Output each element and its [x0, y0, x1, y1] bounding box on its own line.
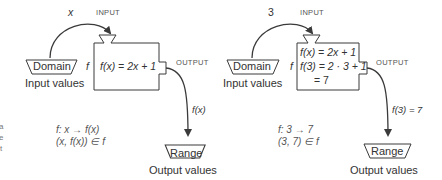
right-domain-caption: Input values [223, 77, 282, 89]
right-function-name: f [290, 60, 293, 72]
edge-fragment: e [0, 133, 3, 142]
right-mapping-notation: f: 3 → 7 [278, 124, 313, 136]
left-range-label: Range [170, 147, 202, 159]
left-function-name: f [86, 60, 89, 72]
right-output-arrow [367, 68, 388, 135]
right-ordered-pair-notation: (3, 7) ∈ f [278, 136, 319, 148]
right-range-caption: Output values [350, 164, 418, 176]
right-input-label: INPUT [300, 8, 324, 17]
left-output-value: f(x) [192, 104, 206, 115]
left-function-rule: f(x) = 2x + 1 [100, 60, 156, 72]
left-input-variable: x [68, 6, 73, 18]
right-output-value: f(3) = 7 [392, 104, 422, 115]
left-domain-label: Domain [33, 60, 71, 72]
edge-fragment: a [0, 122, 3, 131]
right-range-label: Range [371, 145, 403, 157]
left-range-caption: Output values [149, 164, 217, 176]
left-mapping-notation: f: x → f(x) [56, 124, 99, 136]
right-input-value: 3 [268, 6, 274, 18]
right-output-label: OUTPUT [376, 58, 409, 67]
left-ordered-pair-notation: (x, f(x)) ∈ f [56, 136, 105, 148]
right-domain-label: Domain [233, 60, 271, 72]
right-function-result: = 7 [314, 74, 329, 86]
edge-fragment: t [0, 144, 2, 153]
right-function-rule: f(x) = 2x + 1 [300, 46, 356, 58]
left-input-arrow [50, 24, 110, 58]
left-input-label: INPUT [96, 8, 120, 17]
left-domain-caption: Input values [25, 77, 84, 89]
right-function-evaluation: f(3) = 2 · 3 + 1 [300, 60, 367, 72]
left-output-label: OUTPUT [176, 58, 209, 67]
left-output-arrow [166, 68, 188, 135]
